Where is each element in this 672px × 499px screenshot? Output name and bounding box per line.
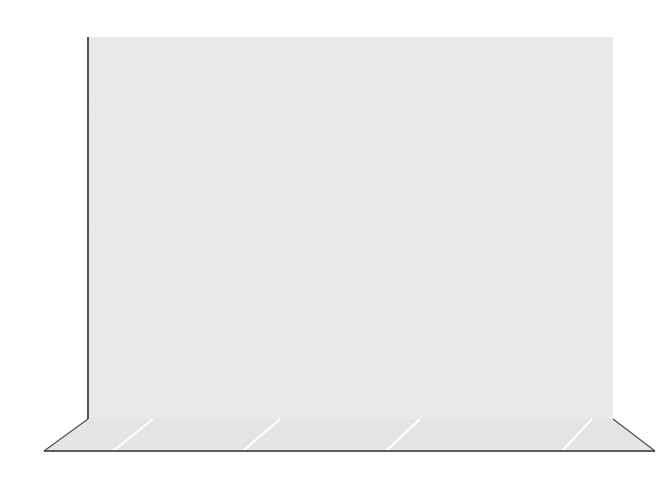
chart-figure	[0, 0, 672, 499]
floor-face	[44, 419, 655, 451]
plot-panel	[88, 37, 613, 419]
area-chart-canvas	[0, 0, 672, 499]
panel-grain	[88, 37, 613, 419]
chart-floor	[44, 419, 655, 451]
